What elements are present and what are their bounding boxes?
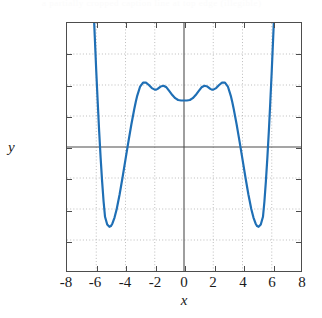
- y-tick-mark-right: [296, 117, 301, 118]
- x-tick-mark: [156, 266, 157, 271]
- y-tick-mark-right: [296, 179, 301, 180]
- y-tick-mark: [67, 86, 72, 87]
- x-tick-mark-top: [126, 23, 127, 28]
- x-tick-mark: [244, 266, 245, 271]
- y-tick-mark: [67, 54, 72, 55]
- y-tick-mark: [67, 242, 72, 243]
- x-tick-mark: [185, 266, 186, 271]
- series-line-path: [90, 23, 277, 227]
- x-tick-mark: [274, 266, 275, 271]
- y-tick-mark-right: [296, 54, 301, 55]
- y-tick-mark: [67, 148, 72, 149]
- y-tick-mark-right: [296, 86, 301, 87]
- y-tick-mark-right: [296, 242, 301, 243]
- x-tick-mark-top: [244, 23, 245, 28]
- x-tick-mark-top: [215, 23, 216, 28]
- x-tick-mark: [126, 266, 127, 271]
- x-tick-mark-top: [274, 23, 275, 28]
- y-tick-mark: [67, 211, 72, 212]
- y-tick-mark: [67, 179, 72, 180]
- figure-canvas: a partially cropped caption line at top …: [0, 0, 322, 318]
- x-tick-mark: [97, 266, 98, 271]
- x-tick-mark-top: [97, 23, 98, 28]
- x-tick-mark: [215, 266, 216, 271]
- x-tick-mark-top: [156, 23, 157, 28]
- y-axis-label: y: [8, 139, 15, 156]
- y-tick-mark: [67, 117, 72, 118]
- y-tick-mark-right: [296, 148, 301, 149]
- x-axis-label: x: [66, 292, 302, 309]
- data-curve: [67, 23, 301, 271]
- xtick-label: 8: [282, 275, 322, 290]
- plot-area: [66, 22, 302, 272]
- x-tick-mark-top: [185, 23, 186, 28]
- y-tick-mark-right: [296, 211, 301, 212]
- cropped-caption-text: a partially cropped caption line at top …: [42, 0, 261, 8]
